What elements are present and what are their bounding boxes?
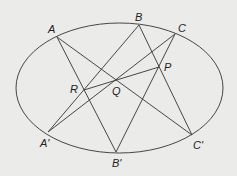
label-p: P bbox=[164, 61, 172, 73]
label-a-prime: A' bbox=[39, 137, 50, 149]
label-c-prime: C' bbox=[193, 139, 204, 151]
pascal-diagram: ABCA'B'C'PQR bbox=[0, 0, 237, 176]
line-c-bp bbox=[116, 34, 175, 152]
line-r-p bbox=[84, 67, 159, 90]
label-b: B bbox=[135, 11, 142, 23]
line-b-ap bbox=[48, 25, 139, 132]
label-a: A bbox=[47, 23, 55, 35]
label-r: R bbox=[70, 83, 78, 95]
label-q: Q bbox=[112, 85, 121, 97]
label-b-prime: B' bbox=[112, 157, 122, 169]
line-c-ap bbox=[48, 34, 175, 132]
line-a-bp bbox=[57, 37, 116, 152]
label-c: C bbox=[178, 22, 186, 34]
